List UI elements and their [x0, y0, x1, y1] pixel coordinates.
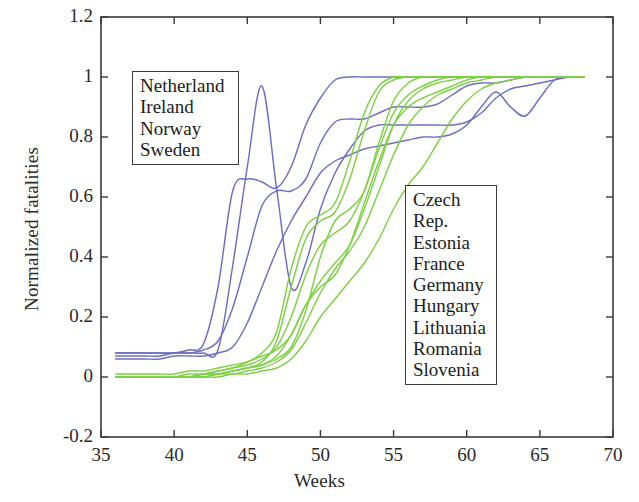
legend-box-north-west: NetherlandIrelandNorwaySweden — [132, 71, 239, 165]
legend-east-item: Rep. — [413, 210, 490, 231]
y-tick-label: 1.2 — [23, 5, 93, 27]
y-tick-label: 0.6 — [23, 185, 93, 207]
x-tick-label: 50 — [290, 444, 350, 466]
y-tick-label: 0 — [23, 365, 93, 387]
legend-east-item: Czech — [413, 189, 490, 210]
legend-north-item: Norway — [140, 118, 232, 139]
legend-east-item: France — [413, 253, 490, 274]
y-tick-label: 0.4 — [23, 245, 93, 267]
x-tick-label: 35 — [71, 444, 131, 466]
x-tick-label: 45 — [217, 444, 277, 466]
x-tick-label: 70 — [583, 444, 639, 466]
legend-north-item: Ireland — [140, 96, 232, 117]
x-tick-label: 40 — [144, 444, 204, 466]
x-tick-label: 55 — [364, 444, 424, 466]
y-tick-label: 0.8 — [23, 125, 93, 147]
legend-east-item: Estonia — [413, 232, 490, 253]
y-tick-label: 1 — [23, 65, 93, 87]
legend-east-item: Hungary — [413, 295, 490, 316]
legend-north-item: Netherland — [140, 75, 232, 96]
y-tick-label: 0.2 — [23, 305, 93, 327]
legend-box-central-east: CzechRep.EstoniaFranceGermanyHungaryLith… — [405, 185, 497, 385]
chart-figure: Normalized fatalities Weeks -0.200.20.40… — [0, 0, 639, 502]
plot-canvas — [0, 0, 639, 502]
x-tick-label: 60 — [437, 444, 497, 466]
x-tick-label: 65 — [510, 444, 570, 466]
legend-north-item: Sweden — [140, 139, 232, 160]
legend-east-item: Slovenia — [413, 359, 490, 380]
legend-east-item: Romania — [413, 338, 490, 359]
legend-east-item: Lithuania — [413, 317, 490, 338]
legend-east-item: Germany — [413, 274, 490, 295]
